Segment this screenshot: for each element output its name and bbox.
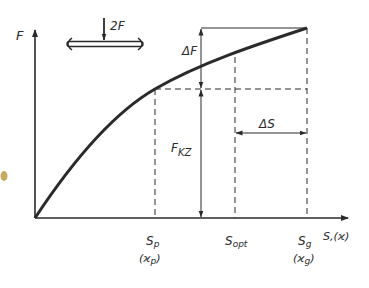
tick-label-sp: Sp <box>146 234 160 249</box>
y-axis-label: F <box>16 28 24 43</box>
beam-load-symbol <box>67 18 143 50</box>
force-label-2f: 2F <box>110 19 126 33</box>
tick-label-sg: Sg <box>298 234 312 249</box>
delta-f-label: ΔF <box>181 44 198 58</box>
tick-label-kappa-p: (ϰp) <box>139 252 161 266</box>
delta-s-label: ΔS <box>258 117 275 131</box>
force-displacement-diagram: F 2F ΔF FKZ ΔS Sp (ϰp) Sopt Sg (ϰg) S,(ϰ… <box>0 0 369 288</box>
x-axis-label: S,(ϰ) <box>323 230 349 243</box>
tick-label-kappa-g: (ϰg) <box>293 252 315 266</box>
dashed-guides <box>155 28 307 218</box>
tick-label-sopt: Sopt <box>225 234 248 249</box>
beam-icon <box>68 38 72 50</box>
stain-mark <box>1 171 8 181</box>
fkz-label: FKZ <box>171 141 192 158</box>
